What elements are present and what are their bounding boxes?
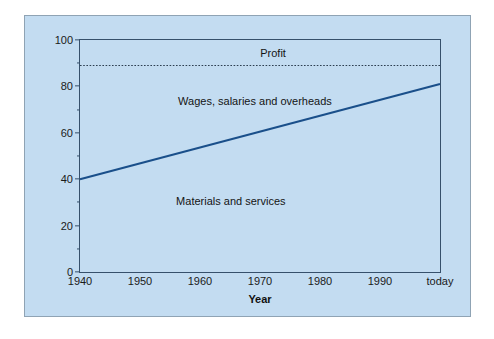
x-tick-label-1940: 1940 <box>68 276 92 287</box>
x-tick-label-1990: 1990 <box>368 276 392 287</box>
annotation-materials-and-services: Materials and services <box>176 196 285 207</box>
y-tick-label-20: 20 <box>61 220 73 231</box>
x-axis-title: Year <box>79 293 441 305</box>
series-layer <box>80 40 440 272</box>
x-tick-label-1980: 1980 <box>308 276 332 287</box>
y-tick-label-60: 60 <box>61 127 73 138</box>
x-tick-label-today: today <box>427 276 454 287</box>
x-tick-label-1970: 1970 <box>248 276 272 287</box>
plot-area: 0 20 40 60 80 100 1940 1950 1960 1970 19… <box>79 39 441 273</box>
chart-panel: Disposal of revenue (%) Year 0 20 40 60 … <box>24 15 471 317</box>
y-tick-label-80: 80 <box>61 81 73 92</box>
x-tick-label-1960: 1960 <box>188 276 212 287</box>
y-tick-label-40: 40 <box>61 174 73 185</box>
chart-figure: Disposal of revenue (%) Year 0 20 40 60 … <box>0 0 494 339</box>
y-tick-label-100: 100 <box>55 35 73 46</box>
annotation-profit: Profit <box>260 47 286 58</box>
annotation-wages-salaries-overheads: Wages, salaries and overheads <box>178 95 332 106</box>
x-tick-label-1950: 1950 <box>128 276 152 287</box>
